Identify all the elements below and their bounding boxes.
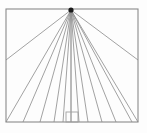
figure-container <box>0 0 147 133</box>
perspective-diagram <box>0 0 147 133</box>
vanishing-point-dot <box>68 7 73 12</box>
